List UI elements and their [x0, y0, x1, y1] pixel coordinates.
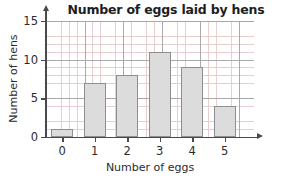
x-axis-arrow-icon	[257, 133, 263, 139]
y-axis-title: Number of hens	[7, 19, 20, 139]
y-axis-line	[45, 10, 47, 137]
bar-chart: Number of eggs laid by hens 012345 05101…	[0, 0, 290, 182]
bar	[84, 83, 106, 137]
x-axis-line	[46, 137, 258, 139]
bar	[149, 52, 171, 137]
x-tick-mark	[127, 137, 128, 142]
y-axis-arrow-icon	[43, 5, 49, 11]
x-tick-mark	[192, 137, 193, 142]
x-tick-label: 0	[52, 144, 72, 158]
x-tick-label: 4	[182, 144, 202, 158]
bars-layer	[46, 21, 254, 137]
x-tick-mark	[95, 137, 96, 142]
plot-area	[46, 21, 254, 137]
x-tick-label: 5	[215, 144, 235, 158]
bar	[181, 67, 203, 137]
bar	[116, 75, 138, 137]
x-tick-label: 3	[150, 144, 170, 158]
x-tick-mark	[160, 137, 161, 142]
y-tick-mark	[41, 98, 46, 99]
x-tick-label: 1	[85, 144, 105, 158]
y-tick-mark	[41, 21, 46, 22]
x-tick-mark	[225, 137, 226, 142]
y-tick-mark	[41, 60, 46, 61]
x-axis-title: Number of eggs	[46, 161, 254, 174]
x-tick-mark	[62, 137, 63, 142]
chart-title: Number of eggs laid by hens	[52, 2, 280, 17]
bar	[214, 106, 236, 137]
x-tick-label: 2	[117, 144, 137, 158]
y-tick-mark	[41, 137, 46, 138]
